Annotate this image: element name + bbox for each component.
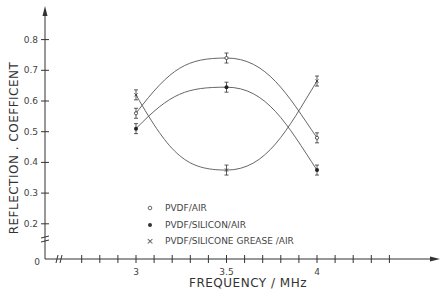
x-ticks: 33.54 — [82, 255, 390, 277]
y-tick-label: 0.7 — [24, 65, 38, 75]
y-axis — [41, 6, 49, 259]
cross-icon: × — [146, 236, 154, 246]
open-circle-marker — [134, 112, 137, 115]
x-tick-label: 4 — [314, 267, 320, 277]
filled-circle-marker — [134, 127, 138, 131]
y-axis-title: REFLECTION . COEFFICENT — [7, 61, 21, 234]
y-tick-label: 0.6 — [24, 96, 39, 106]
filled-circle-marker — [225, 85, 229, 89]
svg-text:PVDF/AIR: PVDF/AIR — [165, 203, 207, 213]
x-axis — [45, 255, 440, 263]
y-tick-label: 0.5 — [24, 127, 38, 137]
legend-item-pvdf-silicon-air: PVDF/SILICON/AIR — [148, 220, 246, 230]
x-tick-label: 3 — [133, 267, 139, 277]
filled-circle-icon — [148, 223, 152, 227]
open-circle-marker — [225, 56, 228, 59]
reflection-coefficient-chart: 0.20.30.40.50.60.70.8 33.54 0 FREQUENCY … — [0, 0, 443, 296]
legend: PVDF/AIR PVDF/SILICON/AIR × PVDF/SILICON… — [146, 203, 294, 246]
svg-text:PVDF/SILICON/AIR: PVDF/SILICON/AIR — [165, 220, 246, 230]
series-pvdf-silicon-air — [134, 82, 319, 175]
open-circle-icon — [148, 206, 152, 210]
origin-label: 0 — [34, 257, 40, 267]
data-series — [134, 53, 319, 175]
y-tick-label: 0.4 — [24, 157, 39, 167]
legend-item-pvdf-silicone-grease-air: × PVDF/SILICONE GREASE /AIR — [146, 236, 294, 246]
legend-item-pvdf-air: PVDF/AIR — [148, 203, 207, 213]
y-tick-label: 0.8 — [24, 35, 39, 45]
filled-circle-marker — [315, 168, 319, 172]
y-tick-label: 0.3 — [24, 188, 38, 198]
open-circle-marker — [315, 136, 318, 139]
x-axis-title: FREQUENCY / MHz — [189, 276, 307, 290]
svg-text:PVDF/SILICONE GREASE /AIR: PVDF/SILICONE GREASE /AIR — [165, 236, 294, 246]
series-pvdf-air — [134, 53, 319, 143]
y-tick-label: 0.2 — [24, 219, 38, 229]
